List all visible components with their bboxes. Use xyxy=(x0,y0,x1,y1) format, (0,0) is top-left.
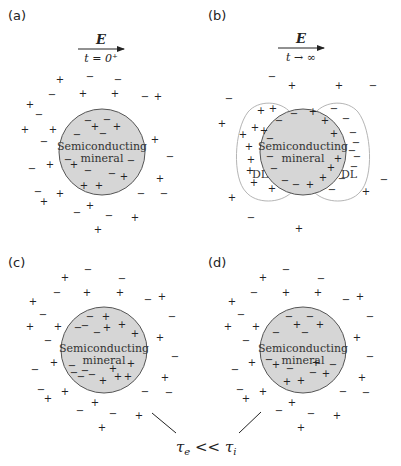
positive-charge-icon: + xyxy=(259,386,267,397)
negative-charge-icon: − xyxy=(103,114,111,125)
positive-charge-icon: + xyxy=(46,159,54,170)
positive-charge-icon: + xyxy=(56,188,64,199)
positive-charge-icon: + xyxy=(362,186,370,197)
positive-charge-icon: + xyxy=(297,422,305,433)
positive-charge-icon: + xyxy=(44,393,52,404)
negative-charge-icon: − xyxy=(268,71,276,82)
negative-charge-icon: − xyxy=(137,188,145,199)
negative-charge-icon: − xyxy=(73,129,81,140)
negative-charge-icon: − xyxy=(362,387,370,398)
positive-charge-icon: + xyxy=(135,410,143,421)
negative-charge-icon: − xyxy=(266,151,274,162)
positive-charge-icon: + xyxy=(102,311,110,322)
connector-line-right xyxy=(239,412,261,433)
positive-charge-icon: + xyxy=(156,173,164,184)
negative-charge-icon: − xyxy=(266,133,274,144)
positive-charge-icon: + xyxy=(247,154,255,165)
negative-charge-icon: − xyxy=(247,212,255,223)
positive-charge-icon: + xyxy=(327,162,335,173)
negative-charge-icon: − xyxy=(225,93,233,104)
negative-charge-icon: − xyxy=(35,109,43,120)
positive-charge-icon: + xyxy=(297,375,305,386)
tau-i-subscript: i xyxy=(233,446,236,457)
positive-charge-icon: + xyxy=(40,196,48,207)
negative-charge-icon: − xyxy=(76,405,84,416)
positive-charge-icon: + xyxy=(83,287,91,298)
negative-charge-icon: − xyxy=(339,386,347,397)
negative-charge-icon: − xyxy=(28,163,36,174)
positive-charge-icon: + xyxy=(26,99,34,110)
positive-charge-icon: + xyxy=(98,422,106,433)
positive-charge-icon: + xyxy=(118,319,126,330)
negative-charge-icon: − xyxy=(330,103,338,114)
positive-charge-icon: + xyxy=(252,321,260,332)
positive-charge-icon: + xyxy=(61,386,69,397)
positive-charge-icon: + xyxy=(114,371,122,382)
panel-b-label: (b) xyxy=(208,8,226,23)
negative-charge-icon: − xyxy=(127,155,135,166)
panel-d: (d) Semiconducting mineral −+−−++−++−−−−… xyxy=(208,255,374,433)
positive-charge-icon: + xyxy=(131,212,139,223)
negative-charge-icon: − xyxy=(237,309,245,320)
negative-charge-icon: − xyxy=(99,128,107,139)
mineral-label-line2: mineral xyxy=(81,152,124,165)
negative-charge-icon: − xyxy=(366,351,374,362)
positive-charge-icon: + xyxy=(54,321,62,332)
panel-b: (b) E t → ∞ Semiconducting mineral DL DL… xyxy=(208,8,388,234)
positive-charge-icon: + xyxy=(319,172,327,183)
negative-charge-icon: − xyxy=(160,188,168,199)
negative-charge-icon: − xyxy=(48,89,56,100)
positive-charge-icon: + xyxy=(156,332,164,343)
positive-charge-icon: + xyxy=(246,165,254,176)
negative-charge-icon: − xyxy=(292,179,300,190)
positive-charge-icon: + xyxy=(295,223,303,234)
positive-charge-icon: + xyxy=(242,393,250,404)
electric-field-label: E xyxy=(295,31,307,46)
positive-charge-icon: + xyxy=(306,179,314,190)
negative-charge-icon: − xyxy=(165,387,173,398)
negative-charge-icon: − xyxy=(307,408,315,419)
negative-charge-icon: − xyxy=(309,367,317,378)
negative-charge-icon: − xyxy=(144,294,152,305)
positive-charge-icon: + xyxy=(95,180,103,191)
positive-charge-icon: + xyxy=(131,328,139,339)
negative-charge-icon: − xyxy=(270,163,278,174)
positive-charge-icon: + xyxy=(218,118,226,129)
positive-charge-icon: + xyxy=(356,291,364,302)
negative-charge-icon: − xyxy=(281,175,289,186)
positive-charge-icon: + xyxy=(70,159,78,170)
negative-charge-icon: − xyxy=(166,151,174,162)
negative-charge-icon: − xyxy=(86,71,94,82)
positive-charge-icon: + xyxy=(111,88,119,99)
negative-charge-icon: − xyxy=(109,408,117,419)
positive-charge-icon: + xyxy=(113,121,121,132)
negative-charge-icon: − xyxy=(350,161,358,172)
positive-charge-icon: + xyxy=(26,321,34,332)
negative-charge-icon: − xyxy=(306,311,314,322)
positive-charge-icon: + xyxy=(224,321,232,332)
negative-charge-icon: − xyxy=(290,108,298,119)
electric-field-label: E xyxy=(95,32,107,47)
negative-charge-icon: − xyxy=(81,320,89,331)
positive-charge-icon: + xyxy=(322,368,330,379)
positive-charge-icon: + xyxy=(154,91,162,102)
positive-charge-icon: + xyxy=(29,296,37,307)
positive-charge-icon: + xyxy=(56,74,64,85)
negative-charge-icon: − xyxy=(31,364,39,375)
negative-charge-icon: − xyxy=(141,386,149,397)
positive-charge-icon: + xyxy=(257,105,265,116)
positive-charge-icon: + xyxy=(161,372,169,383)
negative-charge-icon: − xyxy=(44,335,52,346)
positive-charge-icon: + xyxy=(21,124,29,135)
positive-charge-icon: + xyxy=(272,359,280,370)
positive-charge-icon: + xyxy=(94,224,102,235)
negative-charge-icon: − xyxy=(250,287,258,298)
positive-charge-icon: + xyxy=(228,296,236,307)
positive-charge-icon: + xyxy=(239,129,247,140)
positive-charge-icon: + xyxy=(309,106,317,117)
connector-line-left xyxy=(152,413,176,433)
negative-charge-icon: − xyxy=(171,351,179,362)
negative-charge-icon: − xyxy=(342,113,350,124)
negative-charge-icon: − xyxy=(40,136,48,147)
negative-charge-icon: − xyxy=(369,80,377,91)
